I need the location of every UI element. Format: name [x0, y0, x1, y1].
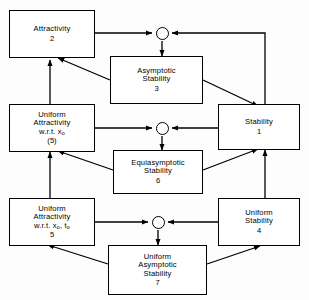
- node-uniform-stability[interactable]: Uniform Stability 4: [218, 198, 300, 246]
- node-attractivity-number: 2: [50, 35, 54, 44]
- node-uniform-attractivity-xt[interactable]: Uniform Attractivity w.r.t. xo, to 5: [9, 198, 95, 246]
- wire-unif-asymptotic-to-unif-stability: [207, 246, 260, 264]
- node-stability-line1: Stability: [245, 118, 273, 127]
- node-uniform-stability-line2: Stability: [245, 217, 273, 226]
- wire-asymptotic-to-stability: [203, 80, 258, 106]
- wire-asymptotic-to-attractivity: [58, 58, 110, 80]
- wire-equiasymptotic-to-stability: [203, 149, 258, 170]
- node-equiasymptotic-stability[interactable]: Equiasymptotic Stability 6: [113, 150, 203, 194]
- node-equiasymptotic-stability-line2: Stability: [144, 167, 172, 176]
- node-uniform-asymptotic-stability-line3: Stability: [144, 270, 172, 279]
- node-uniform-stability-number: 4: [257, 227, 261, 236]
- node-asymptotic-stability-number: 3: [154, 85, 158, 94]
- junction-bottom-circle: [152, 216, 165, 229]
- node-equiasymptotic-stability-number: 6: [156, 177, 160, 186]
- node-uniform-asymptotic-stability[interactable]: Uniform Asymptotic Stability 7: [108, 245, 207, 295]
- node-uniform-attractivity-x[interactable]: Uniform Attractivity w.r.t. xo (5): [9, 104, 95, 152]
- node-attractivity[interactable]: Attractivity 2: [9, 10, 95, 58]
- node-uniform-asymptotic-stability-number: 7: [155, 279, 159, 288]
- diagram-canvas: Attractivity 2 Asymptotic Stability 3 Un…: [0, 0, 309, 300]
- wire-unif-asymptotic-to-unif-attr-xt: [48, 245, 108, 264]
- node-asymptotic-stability-line2: Stability: [143, 75, 171, 84]
- node-uniform-attractivity-xt-number: 5: [50, 231, 54, 240]
- node-uniform-attractivity-x-line3: w.r.t. xo: [39, 128, 65, 137]
- wire-equiasymptotic-to-unif-attr-x: [58, 151, 113, 170]
- node-attractivity-line1: Attractivity: [34, 25, 71, 34]
- node-asymptotic-stability[interactable]: Asymptotic Stability 3: [110, 56, 203, 104]
- junction-middle-circle: [156, 122, 169, 135]
- node-uniform-attractivity-x-number: (5): [47, 137, 56, 146]
- node-stability[interactable]: Stability 1: [218, 104, 300, 150]
- junction-top-circle: [156, 27, 169, 40]
- node-stability-number: 1: [257, 128, 261, 137]
- node-uniform-attractivity-xt-line3: w.r.t. xo, to: [34, 222, 70, 231]
